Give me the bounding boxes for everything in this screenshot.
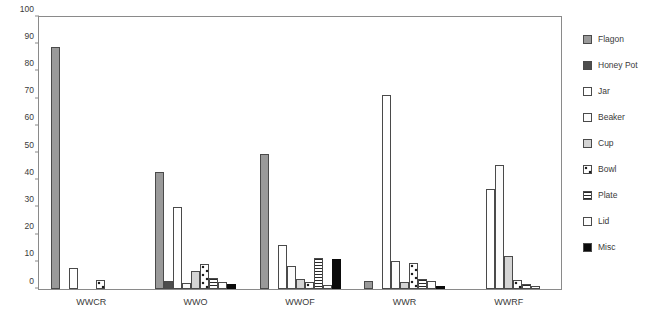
y-axis-tick-label: 90 (25, 31, 34, 40)
x-axis-labels: WWCRWWOWWOFWWRWWRF (39, 293, 561, 311)
legend-swatch-beaker (583, 113, 592, 122)
bar[interactable] (409, 263, 418, 289)
legend-item-label: Misc (598, 243, 615, 252)
bar[interactable] (287, 266, 296, 289)
legend-swatch-bowl (583, 165, 592, 174)
bar-group-bars (457, 17, 561, 289)
bar[interactable] (305, 282, 314, 289)
legend-item[interactable]: Cup (583, 130, 655, 156)
legend-item[interactable]: Bowl (583, 156, 655, 182)
y-axis-tick-label: 70 (25, 86, 34, 95)
y-axis-tick-label: 60 (25, 113, 34, 122)
bar[interactable] (69, 268, 78, 289)
legend-item[interactable]: Misc (583, 234, 655, 260)
bar-group (248, 17, 352, 289)
legend-item-label: Honey Pot (598, 61, 638, 70)
bar[interactable] (209, 278, 218, 289)
bar[interactable] (173, 207, 182, 289)
bar[interactable] (200, 264, 209, 289)
bar-group-bars (248, 17, 352, 289)
bar-group (39, 17, 143, 289)
bar[interactable] (513, 280, 522, 289)
bar[interactable] (418, 279, 427, 289)
bar[interactable] (522, 284, 531, 289)
bar[interactable] (182, 283, 191, 289)
x-axis-label: WWCR (39, 293, 143, 311)
bar[interactable] (218, 282, 227, 289)
bar-chart: 0102030405060708090100 WWCRWWOWWOFWWRWWR… (0, 0, 659, 320)
y-axis-tick-label: 10 (25, 249, 34, 258)
y-axis-tick-label: 0 (29, 276, 34, 285)
legend-item[interactable]: Beaker (583, 104, 655, 130)
bar[interactable] (364, 281, 373, 289)
legend-item[interactable]: Honey Pot (583, 52, 655, 78)
legend-item-label: Plate (598, 191, 617, 200)
bar-group (457, 17, 561, 289)
x-axis-label: WWO (143, 293, 247, 311)
legend-item[interactable]: Flagon (583, 26, 655, 52)
bar[interactable] (164, 281, 173, 289)
bar[interactable] (436, 286, 445, 289)
y-axis-tick-label: 30 (25, 195, 34, 204)
y-axis-tick-label: 20 (25, 222, 34, 231)
x-axis-label: WWR (352, 293, 456, 311)
legend-swatch-cup (583, 139, 592, 148)
bar[interactable] (391, 261, 400, 289)
legend-item-label: Flagon (598, 35, 624, 44)
bar[interactable] (314, 258, 323, 289)
bar[interactable] (260, 154, 269, 289)
bar[interactable] (51, 47, 60, 289)
bar-group (352, 17, 456, 289)
bar[interactable] (278, 245, 287, 289)
bar-group-bars (39, 17, 143, 289)
legend-swatch-honey-pot (583, 61, 592, 70)
x-axis-label: WWOF (248, 293, 352, 311)
plot-area: 0102030405060708090100 (39, 17, 561, 289)
bar[interactable] (96, 280, 105, 289)
y-axis-tick-label: 80 (25, 59, 34, 68)
legend: FlagonHoney PotJarBeakerCupBowlPlateLidM… (583, 26, 655, 260)
bar[interactable] (531, 286, 540, 289)
legend-swatch-plate (583, 191, 592, 200)
y-axis-tick-label: 40 (25, 167, 34, 176)
legend-item-label: Lid (598, 217, 609, 226)
legend-item-label: Bowl (598, 165, 616, 174)
bar[interactable] (382, 95, 391, 289)
bar[interactable] (332, 259, 341, 289)
legend-swatch-jar (583, 87, 592, 96)
legend-item-label: Jar (598, 87, 610, 96)
legend-item-label: Beaker (598, 113, 625, 122)
bar-group-bars (352, 17, 456, 289)
bar[interactable] (155, 172, 164, 289)
bar[interactable] (323, 285, 332, 289)
bar[interactable] (191, 271, 200, 289)
legend-item[interactable]: Lid (583, 208, 655, 234)
x-axis-label: WWRF (457, 293, 561, 311)
bar[interactable] (486, 189, 495, 289)
legend-item-label: Cup (598, 139, 614, 148)
legend-item[interactable]: Jar (583, 78, 655, 104)
bar[interactable] (227, 284, 236, 289)
legend-swatch-flagon (583, 35, 592, 44)
bar-group-bars (143, 17, 247, 289)
legend-swatch-lid (583, 217, 592, 226)
bar-groups (39, 17, 561, 289)
bar[interactable] (296, 279, 305, 289)
y-axis-tick-label: 100 (20, 4, 34, 13)
y-axis-tick-label: 50 (25, 140, 34, 149)
bar-group (143, 17, 247, 289)
bar[interactable] (504, 256, 513, 289)
legend-item[interactable]: Plate (583, 182, 655, 208)
legend-swatch-misc (583, 243, 592, 252)
bar[interactable] (400, 282, 409, 289)
bar[interactable] (427, 281, 436, 289)
bar[interactable] (495, 165, 504, 289)
